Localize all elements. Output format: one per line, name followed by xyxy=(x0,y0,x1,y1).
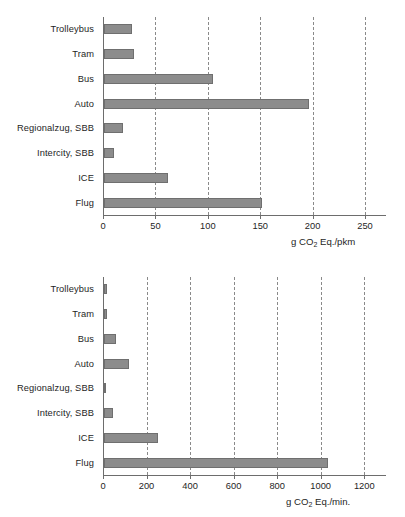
x-axis-line-top xyxy=(103,215,386,216)
x-tick-top-250 xyxy=(365,215,366,219)
category-label: ICE xyxy=(78,433,94,443)
gridline-bottom-600 xyxy=(234,277,235,475)
x-tick-label-top-100: 100 xyxy=(200,221,216,231)
x-axis-title-top: g CO2 Eq./pkm xyxy=(291,236,355,248)
chart-co2-per-min: TrolleybusTramBusAutoRegionalzug, SBBInt… xyxy=(0,258,405,517)
x-tick-label-top-50: 50 xyxy=(150,221,160,231)
x-tick-label-bottom-0: 0 xyxy=(100,481,105,491)
x-tick-bottom-1000 xyxy=(321,475,322,479)
category-label: Bus xyxy=(78,334,94,344)
category-labels-top: TrolleybusTramBusAutoRegionalzug, SBBInt… xyxy=(0,17,98,215)
plot-wrapper-top: TrolleybusTramBusAutoRegionalzug, SBBInt… xyxy=(0,0,405,258)
bar xyxy=(104,458,328,468)
bar xyxy=(104,198,262,208)
axis-title-prefix: g CO xyxy=(291,236,313,247)
x-tick-top-200 xyxy=(313,215,314,219)
bar xyxy=(104,24,132,34)
plot-wrapper-bottom: TrolleybusTramBusAutoRegionalzug, SBBInt… xyxy=(0,258,405,517)
x-tick-label-bottom-1200: 1200 xyxy=(354,481,375,491)
bar xyxy=(104,408,113,418)
gridline-bottom-1000 xyxy=(321,277,322,475)
x-tick-bottom-1200 xyxy=(364,475,365,479)
x-axis-title-bottom: g CO2 Eq./min. xyxy=(286,496,350,508)
bar xyxy=(104,433,158,443)
category-label: Trolleybus xyxy=(50,24,94,34)
x-tick-label-bottom-400: 400 xyxy=(182,481,198,491)
category-label: Auto xyxy=(74,359,94,369)
gridline-bottom-200 xyxy=(147,277,148,475)
gridline-bottom-400 xyxy=(190,277,191,475)
bar xyxy=(104,74,213,84)
y-axis-line-top xyxy=(103,17,104,215)
x-tick-label-bottom-600: 600 xyxy=(226,481,242,491)
axis-title-suffix: Eq./min. xyxy=(312,496,350,507)
gridline-bottom-800 xyxy=(277,277,278,475)
x-tick-label-top-200: 200 xyxy=(305,221,321,231)
x-tick-top-150 xyxy=(260,215,261,219)
gridline-bottom-1200 xyxy=(364,277,365,475)
category-labels-bottom: TrolleybusTramBusAutoRegionalzug, SBBInt… xyxy=(0,277,98,475)
axis-title-prefix: g CO xyxy=(286,496,308,507)
category-label: ICE xyxy=(78,173,94,183)
category-label: Intercity, SBB xyxy=(37,148,94,158)
bar xyxy=(104,173,168,183)
category-label: Flug xyxy=(76,198,95,208)
x-tick-bottom-800 xyxy=(277,475,278,479)
category-label: Trolleybus xyxy=(50,284,94,294)
gridline-top-50 xyxy=(155,17,156,215)
x-tick-label-top-250: 250 xyxy=(357,221,373,231)
chart-co2-per-pkm: TrolleybusTramBusAutoRegionalzug, SBBInt… xyxy=(0,0,405,258)
category-label: Tram xyxy=(72,309,94,319)
x-tick-top-100 xyxy=(208,215,209,219)
x-tick-label-top-150: 150 xyxy=(252,221,268,231)
category-label: Tram xyxy=(72,49,94,59)
axis-title-suffix: Eq./pkm xyxy=(317,236,355,247)
bar xyxy=(104,148,114,158)
bar xyxy=(104,334,116,344)
x-tick-top-50 xyxy=(155,215,156,219)
plot-area-bottom: 020040060080010001200 xyxy=(103,277,386,475)
x-axis-line-bottom xyxy=(103,475,386,476)
axis-title-subscript: 2 xyxy=(313,241,317,248)
category-label: Regionalzug, SBB xyxy=(17,383,94,393)
x-tick-top-0 xyxy=(103,215,104,219)
x-tick-bottom-200 xyxy=(147,475,148,479)
bar xyxy=(104,309,107,319)
bar xyxy=(104,383,106,393)
x-tick-bottom-400 xyxy=(190,475,191,479)
gridline-top-150 xyxy=(260,17,261,215)
category-label: Regionalzug, SBB xyxy=(17,123,94,133)
x-tick-label-bottom-200: 200 xyxy=(139,481,155,491)
gridline-top-200 xyxy=(313,17,314,215)
x-tick-label-bottom-1000: 1000 xyxy=(310,481,331,491)
y-axis-line-bottom xyxy=(103,277,104,475)
axis-title-subscript: 2 xyxy=(308,501,312,508)
category-label: Bus xyxy=(78,74,94,84)
category-label: Flug xyxy=(76,458,95,468)
category-label: Intercity, SBB xyxy=(37,408,94,418)
bar xyxy=(104,123,123,133)
gridline-top-250 xyxy=(365,17,366,215)
x-tick-bottom-0 xyxy=(103,475,104,479)
bar xyxy=(104,359,129,369)
x-tick-label-bottom-800: 800 xyxy=(269,481,285,491)
category-label: Auto xyxy=(74,99,94,109)
x-tick-label-top-0: 0 xyxy=(100,221,105,231)
bar xyxy=(104,49,134,59)
bar xyxy=(104,99,309,109)
bar xyxy=(104,284,107,294)
plot-area-top: 050100150200250 xyxy=(103,17,386,215)
gridline-top-100 xyxy=(208,17,209,215)
x-tick-bottom-600 xyxy=(234,475,235,479)
